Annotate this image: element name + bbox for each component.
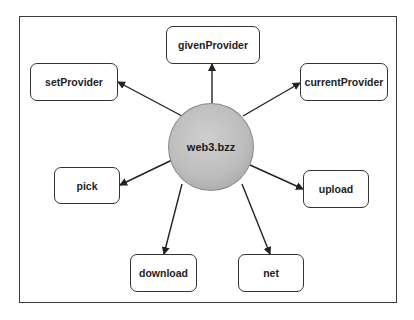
node-label: net bbox=[263, 267, 279, 279]
arrow-to-setProvider bbox=[118, 82, 182, 116]
center-node-web3-bzz: web3.bzz bbox=[168, 103, 254, 191]
node-net: net bbox=[238, 254, 304, 292]
node-pick: pick bbox=[54, 167, 120, 204]
node-label: upload bbox=[319, 183, 353, 195]
node-upload: upload bbox=[303, 170, 369, 208]
node-label: pick bbox=[76, 180, 97, 192]
arrow-to-upload bbox=[250, 165, 303, 189]
arrow-to-pick bbox=[120, 160, 172, 185]
node-label: givenProvider bbox=[178, 39, 248, 51]
node-currentProvider: currentProvider bbox=[300, 63, 388, 101]
node-download: download bbox=[130, 254, 197, 292]
arrow-to-net bbox=[242, 184, 270, 254]
arrow-to-currentProvider bbox=[243, 83, 300, 116]
node-label: currentProvider bbox=[305, 76, 384, 88]
node-setProvider: setProvider bbox=[30, 63, 118, 101]
center-label: web3.bzz bbox=[187, 141, 235, 153]
node-givenProvider: givenProvider bbox=[166, 26, 260, 64]
arrow-to-download bbox=[164, 184, 182, 254]
node-label: setProvider bbox=[45, 76, 103, 88]
node-label: download bbox=[139, 267, 188, 279]
